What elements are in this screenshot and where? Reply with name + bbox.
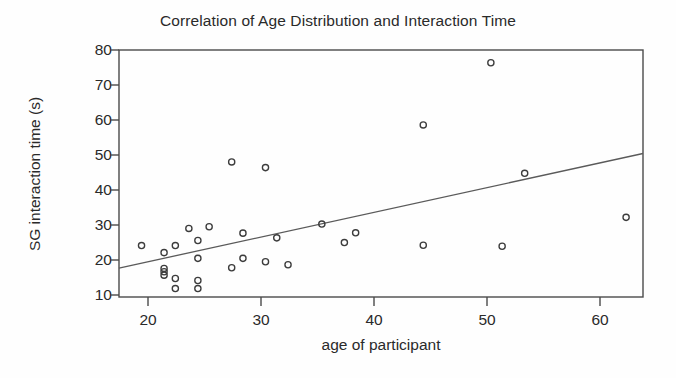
data-point [274,235,280,241]
data-point [195,277,201,283]
regression-trendline [119,154,643,269]
data-point [172,285,178,291]
data-point [186,225,192,231]
y-tickmarks [111,50,119,295]
data-point [420,122,426,128]
data-point [420,242,426,248]
data-point [172,242,178,248]
data-point [172,275,178,281]
data-point [240,255,246,261]
data-point [206,224,212,230]
x-tickmarks [148,297,600,306]
data-point [195,237,201,243]
plot-area [0,0,676,378]
data-points-layer [138,60,629,292]
data-point [488,60,494,66]
data-point [262,165,268,171]
data-point [161,250,167,256]
data-point [195,255,201,261]
data-point [262,259,268,265]
data-point [623,214,629,220]
data-point [240,230,246,236]
data-point [229,265,235,271]
plot-frame [119,50,643,297]
data-point [353,230,359,236]
data-point [341,239,347,245]
scatter-chart-figure: Correlation of Age Distribution and Inte… [0,0,676,378]
data-point [285,262,291,268]
data-point [499,243,505,249]
data-point [522,170,528,176]
data-point [138,242,144,248]
data-point [229,159,235,165]
data-point [195,285,201,291]
